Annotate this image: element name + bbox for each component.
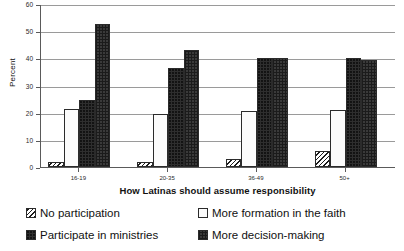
y-tick-label: 20	[26, 110, 33, 117]
x-tick-mark	[167, 168, 168, 172]
y-tick-label: 30	[26, 83, 33, 90]
bar	[48, 162, 64, 167]
x-tick-label: 36-49	[248, 175, 263, 182]
legend-label: No participation	[40, 207, 120, 220]
bar	[330, 110, 346, 167]
x-tick-mark	[78, 168, 79, 172]
bar	[137, 162, 153, 167]
x-tick-label: 16-19	[71, 175, 86, 182]
legend-swatch-icon	[198, 230, 208, 240]
bar	[272, 58, 288, 167]
bar	[226, 159, 242, 167]
legend-label: More decision-making	[212, 229, 325, 242]
legend-item[interactable]: No participation	[26, 207, 198, 220]
y-tick-label: 0	[29, 165, 33, 172]
legend-label: Participate in ministries	[40, 229, 158, 242]
legend-item[interactable]: More decision-making	[198, 229, 386, 242]
bar	[168, 68, 184, 167]
chart-legend: No participationMore formation in the fa…	[26, 202, 386, 246]
bar-chart-figure: Percent 0102030405060 How Latinas should…	[0, 0, 404, 251]
bar	[79, 100, 95, 167]
x-tick-mark	[256, 168, 257, 172]
bar	[315, 151, 331, 167]
y-tick-label: 10	[26, 138, 33, 145]
y-tick-label: 50	[26, 29, 33, 36]
bar	[184, 50, 200, 167]
bar	[153, 114, 169, 167]
y-tick-label: 60	[26, 2, 33, 9]
y-axis: 0102030405060	[0, 0, 40, 173]
legend-label: More formation in the faith	[212, 207, 346, 220]
y-tick-label: 40	[26, 56, 33, 63]
bar	[257, 58, 273, 167]
x-axis-title: How Latinas should assume responsibility	[40, 185, 395, 196]
legend-swatch-icon	[26, 208, 36, 218]
gridline	[41, 5, 395, 6]
plot-area	[40, 5, 395, 168]
x-tick-mark	[345, 168, 346, 172]
bar	[346, 58, 362, 167]
legend-swatch-icon	[198, 208, 208, 218]
bar	[64, 109, 80, 167]
bar	[241, 111, 257, 167]
bar	[361, 60, 377, 167]
y-tick-mark	[36, 168, 40, 169]
legend-item[interactable]: Participate in ministries	[26, 229, 198, 242]
x-tick-label: 20-35	[159, 175, 174, 182]
legend-swatch-icon	[26, 230, 36, 240]
legend-item[interactable]: More formation in the faith	[198, 207, 386, 220]
bar	[95, 24, 111, 167]
x-tick-label: 50+	[340, 175, 350, 182]
